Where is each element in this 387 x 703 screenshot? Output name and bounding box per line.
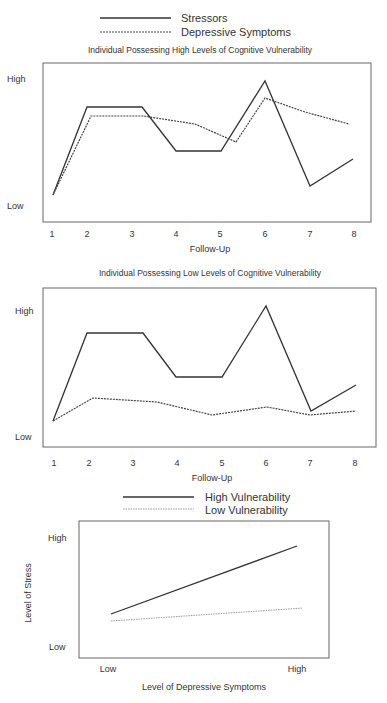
- series-low-vulnerability: [111, 608, 303, 621]
- y-tick-low: Low: [49, 642, 66, 652]
- legend-label-high-vulnerability: High Vulnerability: [205, 491, 291, 503]
- svg-text:6: 6: [263, 458, 268, 468]
- svg-text:2: 2: [86, 458, 91, 468]
- svg-text:7: 7: [307, 458, 312, 468]
- svg-text:1: 1: [49, 229, 54, 239]
- svg-text:1: 1: [51, 458, 56, 468]
- figure: Stressors Depressive Symptoms Individual…: [0, 0, 387, 703]
- x-axis-label: Level of Depressive Symptoms: [142, 682, 267, 692]
- plot-frame: [43, 63, 371, 222]
- series-stressors: [53, 81, 353, 195]
- chart-stress-vs-depression: High Low Level of Stress Low High Level …: [23, 521, 329, 692]
- x-axis-label: Follow-Up: [190, 244, 231, 254]
- chart-low-vulnerability: Individual Possessing Low Levels of Cogn…: [15, 268, 376, 483]
- svg-text:3: 3: [130, 458, 135, 468]
- svg-text:2: 2: [84, 229, 89, 239]
- legend-label-stressors: Stressors: [181, 12, 228, 24]
- y-tick-high: High: [48, 533, 67, 543]
- svg-text:8: 8: [351, 229, 356, 239]
- x-tick-low: Low: [100, 664, 117, 674]
- svg-text:4: 4: [174, 458, 179, 468]
- chart-title: Individual Possessing High Levels of Cog…: [88, 45, 313, 55]
- chart-title: Individual Possessing Low Levels of Cogn…: [99, 268, 322, 278]
- svg-text:5: 5: [219, 458, 224, 468]
- svg-text:8: 8: [352, 458, 357, 468]
- x-axis-label: Follow-Up: [192, 473, 233, 483]
- y-tick-low: Low: [15, 432, 32, 442]
- y-tick-high: High: [15, 306, 34, 316]
- series-high-vulnerability: [111, 546, 297, 614]
- svg-text:5: 5: [217, 229, 222, 239]
- svg-text:7: 7: [307, 229, 312, 239]
- legend-label-depressive: Depressive Symptoms: [181, 26, 292, 38]
- svg-text:3: 3: [129, 229, 134, 239]
- legend-bottom: High Vulnerability Low Vulnerability: [123, 491, 291, 516]
- x-tick-high: High: [288, 664, 307, 674]
- svg-text:4: 4: [173, 229, 178, 239]
- x-ticks: 1 2 3 4 5 6 7 8: [51, 458, 357, 468]
- y-axis-label: Level of Stress: [23, 563, 33, 623]
- plot-frame: [43, 288, 376, 447]
- plot-frame: [79, 521, 329, 658]
- y-tick-high: High: [7, 74, 26, 84]
- legend-label-low-vulnerability: Low Vulnerability: [205, 504, 288, 516]
- svg-text:6: 6: [262, 229, 267, 239]
- legend-top: Stressors Depressive Symptoms: [100, 12, 292, 38]
- x-ticks: 1 2 3 4 5 6 7 8: [49, 229, 356, 239]
- series-depressive-symptoms: [53, 98, 349, 195]
- y-tick-low: Low: [7, 201, 24, 211]
- series-stressors: [53, 306, 356, 421]
- chart-high-vulnerability: Individual Possessing High Levels of Cog…: [7, 45, 371, 254]
